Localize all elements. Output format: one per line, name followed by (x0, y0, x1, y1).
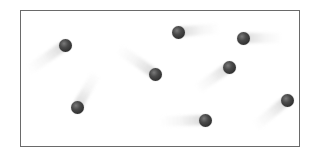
ball-icon (223, 61, 236, 74)
ball-icon (71, 101, 84, 114)
ball-icon (149, 68, 162, 81)
ball-icon (172, 26, 185, 39)
ball-icon (281, 94, 294, 107)
ball-icon (199, 114, 212, 127)
simulation-canvas (0, 0, 314, 152)
ball-icon (237, 32, 250, 45)
ball-icon (59, 39, 72, 52)
